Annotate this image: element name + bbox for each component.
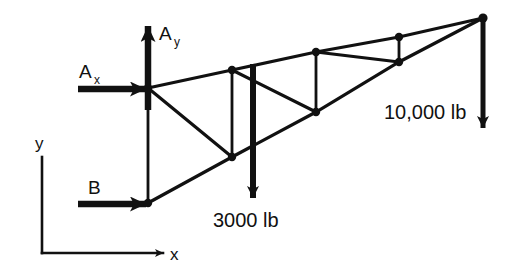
joint-T1 [228,66,236,74]
joint-B3 [395,58,403,66]
reaction-ay-label: A [159,23,172,44]
member-diagonal-3 [316,52,399,62]
joint-T3 [395,33,403,41]
reaction-ay-subscript: y [174,35,180,49]
load-3000-label: 3000 lb [213,209,279,231]
reaction-ax-label: A [79,61,92,82]
axis-y-label: y [35,134,44,153]
reaction-ax-subscript: x [94,73,100,87]
joint-B1 [228,153,236,161]
truss-free-body-diagram: A x A y B 3000 lb 10,000 lb y x [0,0,517,277]
member-diagonal-2 [232,70,316,112]
joint-B2 [312,108,320,116]
reaction-b-label: B [88,177,101,198]
axis-x-label: x [170,245,179,264]
joint-T2 [312,48,320,56]
member-diagonal-1 [148,88,232,157]
load-10000-label: 10,000 lb [384,101,466,123]
